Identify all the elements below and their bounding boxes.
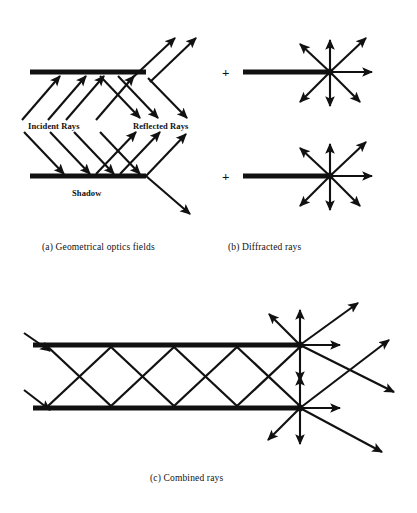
plate-b-top	[243, 70, 330, 75]
label-shadow: Shadow	[72, 189, 101, 198]
reflected-rays-a-top	[100, 76, 187, 118]
plate-b-bottom	[243, 174, 330, 179]
panel-c-waveguide	[24, 303, 394, 452]
plate-a-bottom	[30, 174, 146, 179]
caption-panel-a: (a) Geometrical optics fields	[42, 243, 155, 253]
diffraction-point-c-top	[297, 342, 304, 349]
caption-panel-c: (c) Combined rays	[150, 474, 223, 484]
optics-ray-diagram: Incident Rays Reflected Rays Shadow + + …	[0, 0, 417, 513]
diffraction-point-c-bottom	[297, 405, 304, 412]
incident-rays-a-bottom	[24, 132, 140, 174]
diffraction-point-b-bottom	[327, 173, 334, 180]
panel-a-bottom	[24, 132, 190, 214]
waveguide-top-plate	[33, 343, 300, 348]
label-incident-rays: Incident Rays	[28, 122, 80, 131]
label-reflected-rays: Reflected Rays	[133, 122, 188, 131]
incident-rays-a-top	[22, 76, 134, 120]
escaping-rays-a-top	[128, 38, 196, 82]
shadow-boundary-ray-a-bottom	[146, 176, 190, 214]
waveguide-bottom-plate	[33, 406, 300, 411]
diffraction-point-b-top	[327, 69, 334, 76]
panel-b-top	[243, 38, 372, 106]
plate-a-top	[30, 70, 146, 75]
panel-b-bottom	[243, 142, 372, 210]
diagram-canvas	[0, 0, 417, 513]
caption-panel-b: (b) Diffracted rays	[228, 243, 301, 253]
plus-sign-a: +	[222, 66, 229, 79]
plus-sign-b: +	[222, 170, 229, 183]
bouncing-rays-c	[48, 347, 300, 406]
diffracted-rays-c-bottom-edge	[268, 340, 389, 452]
panel-a-top	[22, 38, 196, 120]
